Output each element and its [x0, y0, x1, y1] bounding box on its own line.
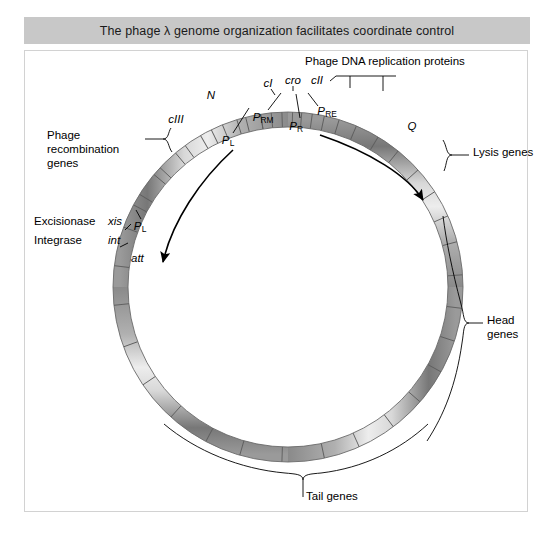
region-label-excisionase: Excisionase — [34, 215, 95, 229]
promoter-sub: R — [297, 124, 303, 134]
leader-lines — [120, 76, 483, 497]
promoter-label-PL-lower: PL — [134, 220, 146, 234]
region-label-lysis-genes: Lysis genes — [473, 146, 533, 160]
genome-arc-sw — [121, 287, 289, 455]
promoter-base: P — [134, 220, 142, 232]
promoter-base: P — [289, 120, 297, 132]
gene-label-Q: Q — [408, 120, 417, 134]
gene-label-att: att — [131, 252, 144, 266]
promoter-base: P — [317, 105, 325, 117]
promoter-sub: RM — [261, 115, 274, 125]
genome-map-svg — [0, 0, 556, 538]
gene-label-cIII: cIII — [168, 113, 183, 127]
bracket-lysis-curly — [443, 140, 452, 171]
leader-prm — [268, 93, 281, 110]
bracket-recomb-curly — [163, 128, 172, 152]
promoter-label-PRE: PRE — [317, 105, 336, 119]
region-line: Head — [487, 313, 518, 327]
region-line: genes — [47, 156, 119, 170]
gene-label-int: int — [108, 234, 120, 248]
gene-label-cro: cro — [285, 74, 301, 88]
promoter-sub: RE — [325, 109, 337, 119]
region-label-integrase: Integrase — [34, 234, 82, 248]
region-line: Phage — [47, 128, 119, 142]
region-label-tail-genes: Tail genes — [306, 490, 358, 504]
promoter-label-PL-upper: PL — [222, 134, 234, 148]
genome-arc-se — [288, 287, 456, 455]
promoter-sub: L — [230, 138, 235, 148]
region-label-phage-dna-replication-proteins: Phage DNA replication proteins — [305, 55, 465, 69]
genome-arc-nw — [121, 120, 289, 288]
region-label-head-genes: Head genes — [487, 313, 518, 341]
promoter-sub: L — [142, 224, 147, 234]
bracket-replication-stem — [330, 76, 336, 81]
promoter-label-PRM: PRM — [253, 111, 274, 125]
genome-arc-ne — [288, 120, 456, 288]
region-line: genes — [487, 327, 518, 341]
gene-label-cI: cI — [264, 77, 273, 91]
region-label-phage-recombination-genes: Phage recombination genes — [47, 128, 119, 170]
gene-label-xis: xis — [108, 215, 122, 229]
genome-circle — [113, 112, 463, 462]
promoter-base: P — [253, 111, 261, 123]
gene-label-N: N — [207, 89, 215, 103]
promoter-label-PR: PR — [289, 120, 303, 134]
figure-container: The phage λ genome organization facilita… — [0, 0, 556, 538]
promoter-base: P — [222, 134, 230, 146]
region-line: recombination — [47, 142, 119, 156]
gene-label-cII: cII — [311, 74, 323, 88]
